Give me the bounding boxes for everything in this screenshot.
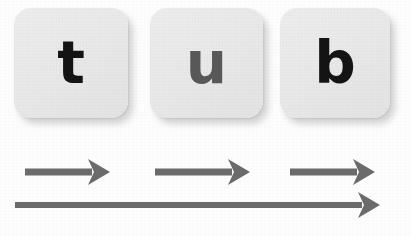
tile-letter-u: u	[186, 34, 227, 92]
segment-arrow-1-shaft	[25, 169, 92, 176]
segment-arrow-2	[155, 159, 250, 185]
phonics-blending-diagram: t u b	[0, 0, 411, 236]
tile-letter-t: t	[57, 34, 85, 92]
segment-arrow-3	[290, 159, 375, 185]
segment-arrow-1	[25, 159, 110, 185]
blend-arrow	[15, 192, 380, 218]
blend-arrow-shaft	[15, 202, 362, 208]
segment-arrow-2-shaft	[155, 169, 232, 176]
tile-letter-b: b	[314, 34, 356, 92]
segment-arrow-3-shaft	[290, 169, 357, 176]
